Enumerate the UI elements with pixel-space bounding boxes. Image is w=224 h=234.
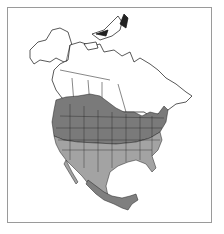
winter-range xyxy=(86,180,138,210)
canada-alaska-landmass xyxy=(30,14,192,116)
range-map xyxy=(0,0,224,234)
